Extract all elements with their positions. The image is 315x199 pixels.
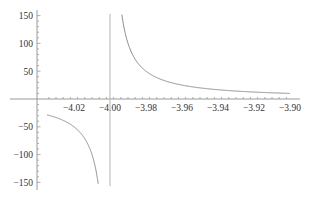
y-tick-label: −150 (13, 178, 33, 188)
x-tick-label: −3.92 (243, 103, 265, 113)
y-tick-label: −50 (18, 122, 33, 132)
function-curve (47, 115, 98, 184)
axes (10, 10, 300, 190)
x-tick-label: −3.94 (207, 103, 229, 113)
y-tick-label: 50 (24, 67, 34, 77)
y-tick-label: −100 (13, 150, 33, 160)
y-tick-label: 100 (19, 39, 34, 49)
x-tick-label: −3.90 (279, 103, 301, 113)
y-tick-label: 150 (19, 11, 34, 21)
chart: −4.02−4.00−3.98−3.96−3.94−3.92−3.9015010… (0, 0, 315, 199)
function-curve (122, 15, 290, 94)
x-tick-label: −3.98 (135, 103, 157, 113)
x-tick-label: −3.96 (171, 103, 193, 113)
x-tick-label: −4.02 (63, 103, 85, 113)
